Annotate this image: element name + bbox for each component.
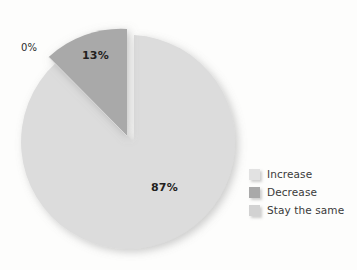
slice-label-increase: 0% bbox=[21, 43, 37, 53]
pie-chart: 0% 13% 87% Increase Decrease Stay the sa… bbox=[0, 0, 357, 270]
legend-swatch-stay-the-same bbox=[249, 205, 260, 216]
legend-item-increase[interactable]: Increase bbox=[249, 167, 344, 181]
legend-label-stay-the-same: Stay the same bbox=[267, 205, 344, 216]
legend-swatch-increase bbox=[249, 169, 260, 180]
legend-item-stay-the-same[interactable]: Stay the same bbox=[249, 203, 344, 217]
slice-label-decrease: 13% bbox=[82, 50, 109, 61]
pie-slice-stay-the-same bbox=[21, 35, 235, 249]
slice-label-stay-the-same: 87% bbox=[151, 182, 178, 193]
legend-swatch-decrease bbox=[249, 187, 260, 198]
legend-label-increase: Increase bbox=[267, 169, 312, 180]
legend-item-decrease[interactable]: Decrease bbox=[249, 185, 344, 199]
chart-legend: Increase Decrease Stay the same bbox=[249, 167, 344, 217]
pie-chart-canvas bbox=[0, 0, 357, 270]
legend-label-decrease: Decrease bbox=[267, 187, 317, 198]
